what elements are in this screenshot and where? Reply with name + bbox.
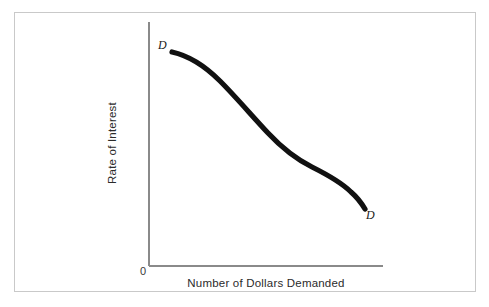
plot-area xyxy=(0,0,489,307)
curve-label-bottom: D xyxy=(366,209,375,221)
y-axis-title: Rate of Interest xyxy=(107,102,119,184)
x-axis-title: Number of Dollars Demanded xyxy=(149,278,383,290)
demand-curve xyxy=(172,52,365,209)
curve-label-top: D xyxy=(158,39,167,51)
origin-label: 0 xyxy=(140,266,146,277)
figure-container: D D 0 Number of Dollars Demanded Rate of… xyxy=(0,0,489,307)
